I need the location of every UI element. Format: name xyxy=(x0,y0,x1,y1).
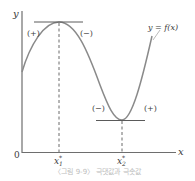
tick-label-x1: x*1 xyxy=(54,155,63,167)
x-axis-label: x xyxy=(178,147,184,157)
origin-label: 0 xyxy=(14,151,20,160)
sign-before-max: (+) xyxy=(27,30,40,38)
curve-label: y = f(x) xyxy=(148,24,178,32)
sign-after-max: (−) xyxy=(80,30,93,38)
tick-x2-sub: 2 xyxy=(122,160,126,167)
tick-x1-sub: 1 xyxy=(59,160,63,167)
sign-after-min: (+) xyxy=(144,105,157,113)
sign-before-min: (−) xyxy=(92,105,105,113)
tick-label-x2: x*2 xyxy=(117,155,126,167)
y-axis-label: y xyxy=(13,9,19,19)
figure-caption: 〈그림 9-9〉 극댓값과 극솟값 xyxy=(0,169,195,176)
